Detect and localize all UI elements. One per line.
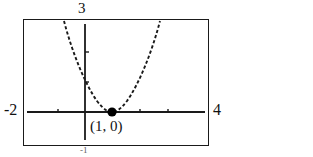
vertex-point-label: (1, 0): [90, 118, 123, 135]
graph-figure: 3 -2 4 -1 (1, 0): [0, 0, 313, 157]
x-min-label: -2: [4, 102, 17, 118]
y-max-label: 3: [78, 1, 86, 16]
y-min-label: -1: [80, 146, 88, 155]
x-max-label: 4: [213, 102, 221, 118]
